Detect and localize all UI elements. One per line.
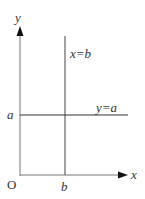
line-x-equals-b-label: x=b	[69, 46, 92, 61]
y-axis-label: y	[13, 10, 21, 25]
origin-label: O	[7, 177, 16, 192]
coordinate-diagram: y x O b a x=b y=a	[0, 0, 145, 199]
x-axis-arrow-icon	[118, 172, 128, 179]
y-axis-arrow-icon	[17, 26, 24, 36]
y-tick-a: a	[7, 107, 14, 122]
line-y-equals-a-label: y=a	[94, 100, 118, 115]
x-axis-label: x	[130, 167, 137, 182]
x-tick-b: b	[61, 179, 68, 194]
